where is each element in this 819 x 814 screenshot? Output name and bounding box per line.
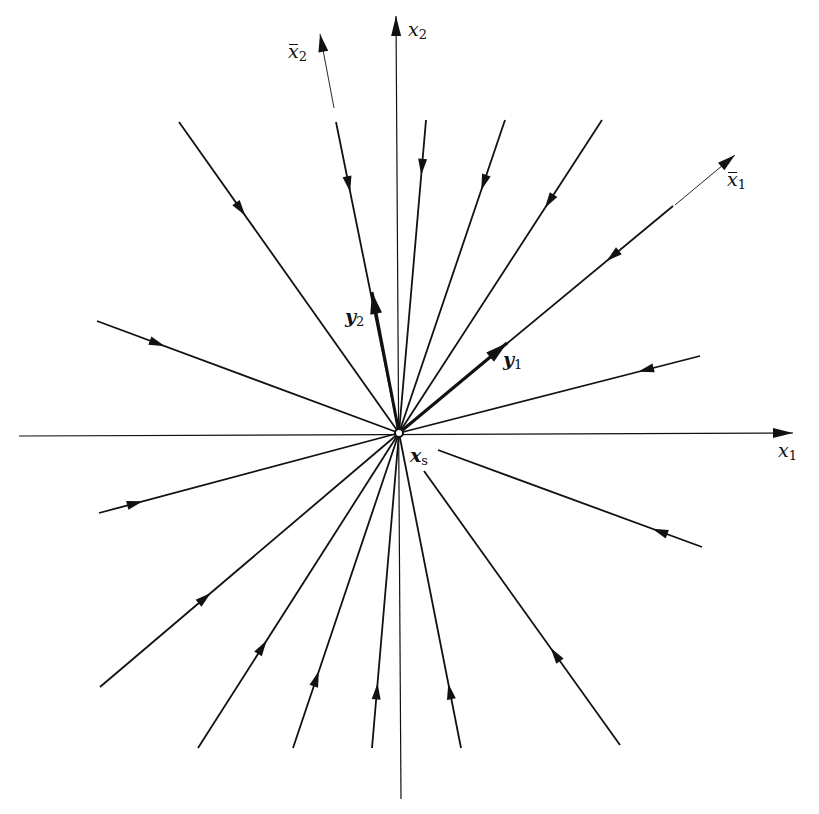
rotated-axis-arrow-x2bar-icon (318, 34, 328, 53)
axis-label-x1-bar: x1 (727, 170, 746, 191)
trajectory-9 (100, 433, 399, 687)
trajectory-arrow-4-icon (545, 192, 557, 208)
eigenvector-label-y2: y2 (345, 307, 364, 328)
trajectory-arrow-14-icon (652, 529, 669, 539)
trajectory-arrow-8-icon (126, 501, 143, 510)
trajectory-arrow-0-icon (232, 200, 245, 216)
trajectory-arrow-1-icon (343, 175, 352, 192)
trajectory-arrow-7-icon (148, 336, 165, 346)
trajectory-3 (399, 120, 505, 433)
axis-x1 (19, 433, 793, 436)
trajectory-arrow-15-icon (551, 648, 564, 664)
axis-x2 (396, 16, 401, 799)
trajectory-10 (198, 433, 399, 748)
trajectory-arrow-12-icon (372, 683, 381, 699)
coordinate-axes (19, 16, 793, 799)
axis-arrow-x1-icon (773, 428, 793, 438)
trajectory-15 (424, 471, 620, 745)
trajectory-4 (399, 120, 602, 433)
axis-arrow-x2-icon (391, 16, 401, 36)
trajectory-arrow-11-icon (310, 671, 319, 688)
trajectory-arrow-2-icon (418, 159, 427, 175)
trajectory-8 (99, 433, 399, 513)
trajectory-12 (372, 433, 399, 748)
trajectory-7 (97, 321, 399, 433)
eigenvectors (370, 292, 507, 433)
trajectory-11 (293, 433, 399, 748)
trajectory-arrow-3-icon (481, 174, 490, 191)
trajectory-arrow-6-icon (638, 364, 655, 373)
phase-portrait-diagram (0, 0, 819, 814)
trajectory-arrow-10-icon (254, 640, 266, 656)
eigenvector-arrow-y2-icon (370, 292, 382, 315)
axis-label-x1: x1 (778, 441, 797, 462)
fixed-point-label: xs (410, 446, 428, 467)
trajectory-arrow-13-icon (447, 683, 456, 700)
eigenvector-label-y1: y1 (503, 350, 522, 371)
fixed-point-marker (395, 429, 403, 437)
trajectory-0 (179, 122, 399, 433)
axis-label-x2-bar: x2 (288, 42, 307, 63)
axis-label-x2: x2 (408, 20, 427, 41)
